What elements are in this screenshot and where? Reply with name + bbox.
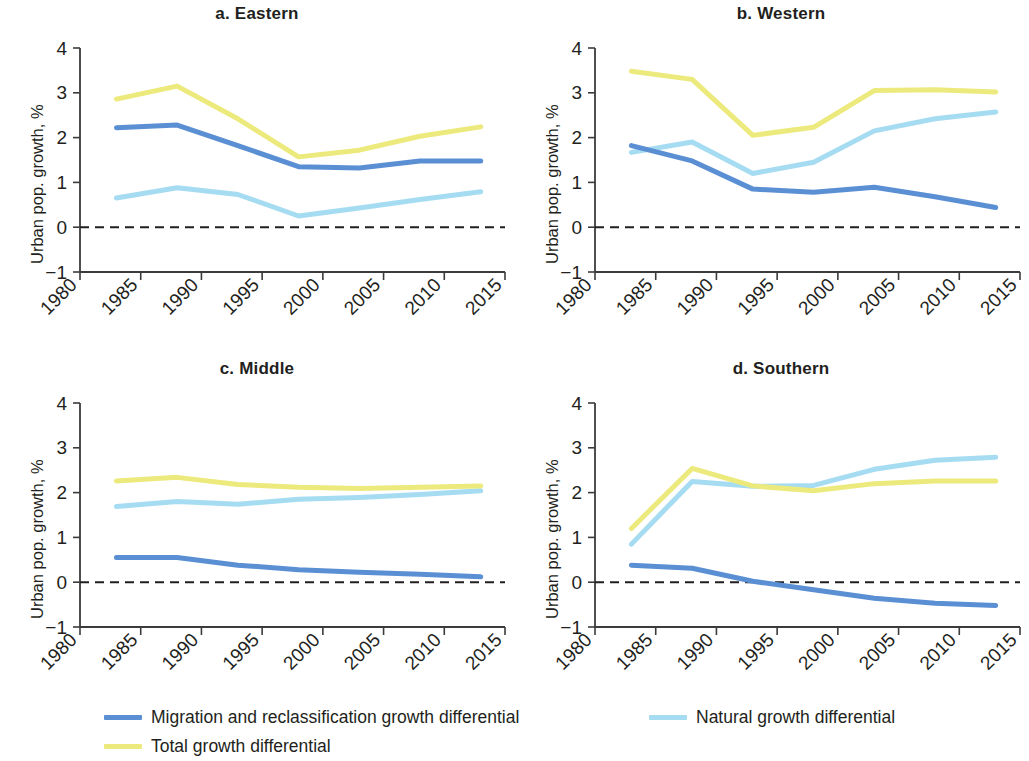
x-tick-label: 1980 <box>551 274 596 319</box>
x-tick-label: 2000 <box>279 274 324 319</box>
x-tick-label: 2005 <box>340 274 385 319</box>
panel-d-southern: d. Southern 43210−1198019851990199520002… <box>515 355 1029 700</box>
x-tick-label: 1980 <box>36 629 81 674</box>
x-tick-label-group: 2000 <box>794 274 839 319</box>
legend: Migration and reclassification growth di… <box>0 700 1029 761</box>
x-tick-label-group: 1990 <box>673 274 718 319</box>
legend-label-natural: Natural growth differential <box>696 707 895 728</box>
panel-a-eastern: a. Eastern 43210−11980198519901995200020… <box>0 0 514 345</box>
plot-area-1: 43210−119801985199019952000200520102015 <box>0 0 514 345</box>
x-tick-label: 2010 <box>915 274 960 319</box>
legend-swatch-natural <box>649 715 687 720</box>
y-tick-label: 1 <box>56 172 67 193</box>
x-tick-label: 1990 <box>158 274 203 319</box>
x-tick-label-group: 1980 <box>36 629 81 674</box>
x-tick-label: 1980 <box>551 629 596 674</box>
legend-label-migration: Migration and reclassification growth di… <box>151 707 519 728</box>
x-tick-label: 1995 <box>218 274 263 319</box>
x-tick-label: 2010 <box>400 274 445 319</box>
x-tick-label: 2015 <box>976 274 1021 319</box>
x-tick-label-group: 1990 <box>158 629 203 674</box>
x-tick-label-group: 2000 <box>279 629 324 674</box>
x-tick-label: 1980 <box>36 274 81 319</box>
figure-four-panel-urban-growth: a. Eastern 43210−11980198519901995200020… <box>0 0 1029 761</box>
x-tick-label-group: 2015 <box>461 274 506 319</box>
y-tick-label: 0 <box>571 572 582 593</box>
x-tick-label: 1985 <box>612 629 657 674</box>
series-line <box>116 558 480 577</box>
series-line <box>631 468 995 528</box>
legend-swatch-total <box>104 744 142 749</box>
x-tick-label-group: 1980 <box>551 629 596 674</box>
x-tick-label-group: 1995 <box>733 629 778 674</box>
panel-b-western: b. Western 43210−11980198519901995200020… <box>515 0 1029 345</box>
x-tick-label: 1990 <box>158 629 203 674</box>
x-tick-label-group: 1980 <box>551 274 596 319</box>
plot-area-4: 43210−119801985199019952000200520102015 <box>515 355 1029 700</box>
y-tick-label: 2 <box>56 482 67 503</box>
legend-item-migration: Migration and reclassification growth di… <box>104 707 519 728</box>
y-tick-label: 2 <box>571 482 582 503</box>
x-tick-label: 1995 <box>218 629 263 674</box>
x-tick-label: 2000 <box>794 629 839 674</box>
x-tick-label-group: 1985 <box>97 274 142 319</box>
x-tick-label-group: 2015 <box>976 629 1021 674</box>
y-tick-label: 3 <box>56 437 67 458</box>
y-tick-label: 2 <box>56 127 67 148</box>
series-line <box>631 146 995 208</box>
x-tick-label: 2015 <box>461 274 506 319</box>
y-tick-label: 4 <box>571 393 582 414</box>
plot-area-3: 43210−119801985199019952000200520102015 <box>0 355 514 700</box>
legend-swatch-migration <box>104 715 142 720</box>
x-tick-label-group: 2005 <box>340 274 385 319</box>
y-tick-label: 1 <box>571 172 582 193</box>
y-tick-label: 1 <box>56 527 67 548</box>
x-tick-label: 2005 <box>855 629 900 674</box>
x-tick-label: 1990 <box>673 274 718 319</box>
y-axis-label: Urban pop. growth, % <box>543 459 562 619</box>
x-tick-label-group: 1990 <box>158 274 203 319</box>
y-tick-label: 0 <box>571 217 582 238</box>
y-tick-label: 4 <box>56 38 67 59</box>
x-tick-label-group: 1980 <box>36 274 81 319</box>
y-tick-label: 3 <box>56 82 67 103</box>
x-tick-label-group: 1985 <box>612 629 657 674</box>
panel-c-middle: c. Middle 43210−119801985199019952000200… <box>0 355 514 700</box>
x-tick-label-group: 2010 <box>915 629 960 674</box>
x-tick-label: 1995 <box>733 274 778 319</box>
x-tick-label: 2000 <box>794 274 839 319</box>
x-tick-label-group: 1995 <box>218 629 263 674</box>
series-line <box>631 112 995 173</box>
series-line <box>631 565 995 605</box>
x-tick-label-group: 2000 <box>794 629 839 674</box>
x-tick-label-group: 2015 <box>976 274 1021 319</box>
y-axis-label: Urban pop. growth, % <box>28 459 47 619</box>
y-tick-label: 4 <box>571 38 582 59</box>
x-tick-label-group: 2010 <box>400 274 445 319</box>
x-tick-label-group: 1990 <box>673 629 718 674</box>
legend-label-total: Total growth differential <box>151 736 331 757</box>
x-tick-label-group: 1995 <box>733 274 778 319</box>
series-line <box>116 477 480 488</box>
x-tick-label: 1990 <box>673 629 718 674</box>
x-tick-label: 1985 <box>612 274 657 319</box>
plot-area-2: 43210−119801985199019952000200520102015 <box>515 0 1029 345</box>
x-tick-label-group: 2010 <box>915 274 960 319</box>
x-tick-label-group: 2000 <box>279 274 324 319</box>
y-tick-label: 3 <box>571 437 582 458</box>
x-tick-label: 2010 <box>400 629 445 674</box>
legend-item-natural: Natural growth differential <box>649 707 895 728</box>
x-tick-label: 2015 <box>461 629 506 674</box>
x-tick-label-group: 1985 <box>97 629 142 674</box>
series-line <box>631 457 995 544</box>
y-tick-label: 0 <box>56 217 67 238</box>
x-tick-label: 2015 <box>976 629 1021 674</box>
series-line <box>631 71 995 135</box>
y-tick-label: 3 <box>571 82 582 103</box>
x-tick-label-group: 2005 <box>340 629 385 674</box>
series-line <box>116 86 480 157</box>
x-tick-label-group: 1985 <box>612 274 657 319</box>
x-tick-label-group: 2010 <box>400 629 445 674</box>
y-axis-label: Urban pop. growth, % <box>543 104 562 264</box>
y-tick-label: 2 <box>571 127 582 148</box>
